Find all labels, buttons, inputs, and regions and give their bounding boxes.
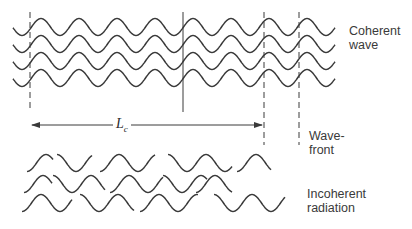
coherence-length-subscript: c <box>124 124 128 134</box>
incoherent-wave-segment <box>24 176 52 193</box>
coherence-length-arrow <box>31 122 263 128</box>
incoherent-wave-segment <box>214 195 285 212</box>
incoherent-wave-group <box>22 155 285 212</box>
coherent-wave-label: Coherent wave <box>349 24 400 52</box>
incoherent-wave-segment <box>27 155 53 172</box>
arrowhead-left-icon <box>31 122 40 128</box>
coherence-length-symbol: L <box>116 116 124 131</box>
incoherent-wave-segment <box>110 176 163 193</box>
arrowhead-right-icon <box>254 122 263 128</box>
incoherent-wave-segment <box>237 155 271 172</box>
incoherent-wave-segment <box>100 155 155 172</box>
incoherent-wave-segment <box>168 155 232 172</box>
incoherent-wave-segment <box>80 195 134 212</box>
coherence-length-label: Lc <box>113 116 131 134</box>
incoherent-radiation-label: Incoherent radiation <box>307 187 366 215</box>
coherent-wave-row <box>13 70 335 87</box>
incoherent-wave-segment <box>22 195 72 212</box>
wavefront-label-line2: front <box>309 143 345 157</box>
incoherent-wave-segment <box>196 176 232 193</box>
incoherent-wave-segment <box>140 195 198 212</box>
coherent-label-line1: Coherent <box>349 24 400 38</box>
wavefront-label-line1: Wave- <box>309 129 345 143</box>
incoherent-label-line2: radiation <box>307 201 366 215</box>
wavefront-label: Wave- front <box>309 129 345 157</box>
coherent-label-line2: wave <box>349 38 400 52</box>
coherent-wave-group <box>13 19 335 87</box>
coherent-wave-row <box>13 53 335 70</box>
coherent-wave-row <box>13 36 335 53</box>
incoherent-wave-segment <box>57 155 92 172</box>
incoherent-label-line1: Incoherent <box>307 187 366 201</box>
incoherent-wave-segment <box>53 176 105 193</box>
coherent-wave-row <box>13 19 335 36</box>
